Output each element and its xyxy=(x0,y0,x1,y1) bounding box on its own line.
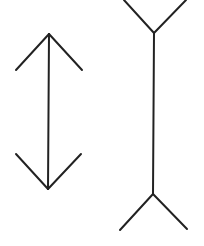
right-top-fin-left xyxy=(124,0,154,33)
left-top-fin-right xyxy=(49,34,82,70)
tailfin-figure-right xyxy=(120,0,187,230)
left-top-fin-left xyxy=(16,34,49,70)
left-shaft xyxy=(48,34,49,189)
arrowhead-figure-left xyxy=(16,34,82,189)
left-bottom-fin-left xyxy=(16,154,48,189)
right-top-fin-right xyxy=(154,0,186,33)
left-bottom-fin-right xyxy=(48,154,81,189)
muller-lyer-diagram: Müller-Lyer illusion xyxy=(0,0,204,246)
right-bottom-fin-right xyxy=(153,194,187,229)
right-shaft xyxy=(153,33,154,194)
right-bottom-fin-left xyxy=(120,194,153,230)
